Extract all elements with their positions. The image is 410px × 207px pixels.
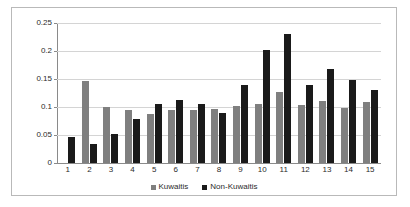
bar-kuwaitis-7 xyxy=(190,110,197,163)
x-axis-tick-label: 3 xyxy=(100,166,122,174)
x-axis-tick-label: 8 xyxy=(208,166,230,174)
bar-non-kuwaitis-8 xyxy=(219,113,226,163)
legend-item-kuwaitis: Kuwaitis xyxy=(151,183,189,191)
bar-kuwaitis-5 xyxy=(147,114,154,163)
x-axis-tick-labels: 123456789101112131415 xyxy=(57,166,381,174)
bar-group xyxy=(143,23,165,163)
y-axis-tick-label: 0.15 xyxy=(36,75,52,83)
chart-frame: 00.050.10.150.20.25 12345678910111213141… xyxy=(11,7,397,196)
x-axis-tick-label: 5 xyxy=(143,166,165,174)
bar-kuwaitis-8 xyxy=(211,109,218,163)
bar-kuwaitis-9 xyxy=(233,106,240,163)
plot-area: 00.050.10.150.20.25 xyxy=(57,23,381,163)
bar-non-kuwaitis-10 xyxy=(263,50,270,163)
bar-non-kuwaitis-13 xyxy=(327,69,334,163)
bar-kuwaitis-4 xyxy=(125,110,132,163)
legend-label: Kuwaitis xyxy=(159,183,189,191)
bar-kuwaitis-6 xyxy=(168,110,175,163)
bar-non-kuwaitis-14 xyxy=(349,80,356,163)
x-axis-tick-label: 14 xyxy=(338,166,360,174)
bar-non-kuwaitis-12 xyxy=(306,85,313,163)
bar-group xyxy=(79,23,101,163)
x-axis-tick-label: 11 xyxy=(273,166,295,174)
bar-non-kuwaitis-1 xyxy=(68,137,75,163)
x-axis-tick-label: 6 xyxy=(165,166,187,174)
legend-swatch-icon xyxy=(151,185,156,190)
axis-baseline xyxy=(57,163,381,164)
bar-group xyxy=(100,23,122,163)
x-axis-tick-label: 1 xyxy=(57,166,79,174)
bar-groups xyxy=(57,23,381,163)
bar-group xyxy=(295,23,317,163)
bar-kuwaitis-14 xyxy=(341,108,348,163)
bar-group xyxy=(251,23,273,163)
y-axis-tick-label: 0.2 xyxy=(41,47,52,55)
bar-group xyxy=(359,23,381,163)
bar-kuwaitis-10 xyxy=(255,104,262,163)
x-axis-tick-label: 12 xyxy=(295,166,317,174)
bar-group xyxy=(273,23,295,163)
x-axis-tick-label: 2 xyxy=(79,166,101,174)
x-axis-tick-label: 13 xyxy=(316,166,338,174)
x-axis-tick-label: 10 xyxy=(251,166,273,174)
bar-non-kuwaitis-7 xyxy=(198,104,205,163)
bar-kuwaitis-11 xyxy=(276,92,283,163)
chart-legend: KuwaitisNon-Kuwaitis xyxy=(12,183,396,191)
bar-group xyxy=(187,23,209,163)
bar-non-kuwaitis-4 xyxy=(133,119,140,163)
x-axis-tick-label: 7 xyxy=(187,166,209,174)
bar-non-kuwaitis-6 xyxy=(176,100,183,163)
y-axis-tick-mark xyxy=(54,163,57,164)
bar-kuwaitis-12 xyxy=(298,105,305,163)
bar-group xyxy=(230,23,252,163)
x-axis-tick-label: 4 xyxy=(122,166,144,174)
bar-kuwaitis-13 xyxy=(319,101,326,163)
bar-non-kuwaitis-2 xyxy=(90,144,97,163)
bar-group xyxy=(316,23,338,163)
y-axis-tick-label: 0.1 xyxy=(41,103,52,111)
bar-group xyxy=(208,23,230,163)
bar-kuwaitis-3 xyxy=(103,107,110,163)
x-axis-tick-label: 15 xyxy=(359,166,381,174)
bar-group xyxy=(165,23,187,163)
legend-swatch-icon xyxy=(202,185,207,190)
y-axis-tick-label: 0.05 xyxy=(36,131,52,139)
bar-kuwaitis-15 xyxy=(363,102,370,163)
bar-group xyxy=(122,23,144,163)
bar-kuwaitis-2 xyxy=(82,81,89,163)
legend-label: Non-Kuwaitis xyxy=(210,183,257,191)
y-axis-tick-label: 0 xyxy=(48,159,52,167)
bar-non-kuwaitis-9 xyxy=(241,85,248,163)
bar-non-kuwaitis-3 xyxy=(111,134,118,163)
y-axis-tick-label: 0.25 xyxy=(36,19,52,27)
bar-group xyxy=(338,23,360,163)
bar-group xyxy=(57,23,79,163)
bar-non-kuwaitis-15 xyxy=(371,90,378,163)
bar-non-kuwaitis-5 xyxy=(155,104,162,163)
x-axis-tick-label: 9 xyxy=(230,166,252,174)
legend-item-non-kuwaitis: Non-Kuwaitis xyxy=(202,183,257,191)
bar-non-kuwaitis-11 xyxy=(284,34,291,163)
